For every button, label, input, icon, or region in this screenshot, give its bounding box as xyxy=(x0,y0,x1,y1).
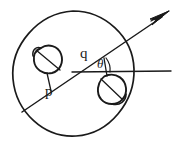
label-q: q xyxy=(80,46,88,61)
label-theta: θ xyxy=(97,57,103,70)
label-p: p xyxy=(45,84,53,99)
diagram-svg xyxy=(0,0,177,144)
segment-to-q xyxy=(104,58,107,76)
outer-circle xyxy=(13,11,134,136)
arrowhead-barb xyxy=(151,11,169,21)
blob-upper-left-chord xyxy=(36,50,60,70)
horizontal-ray xyxy=(72,71,171,72)
blob-lower-right-chord xyxy=(101,79,123,100)
diagonal-line xyxy=(22,17,162,112)
figure-canvas: p q θ xyxy=(0,0,177,144)
